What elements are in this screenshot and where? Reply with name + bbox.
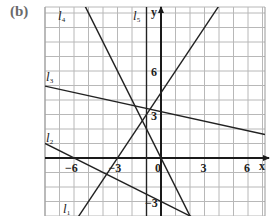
label-l1: l1: [63, 201, 71, 216]
line-l3: [45, 86, 265, 134]
x-tick-label: 0: [155, 161, 161, 175]
label-l2: l2: [46, 130, 54, 146]
y-axis-label: y: [151, 5, 157, 19]
coordinate-plane: xy−6−303663−3l1l2l3l4l5: [0, 0, 272, 216]
x-tick-label: 3: [201, 161, 207, 175]
x-tick-label: 6: [244, 161, 250, 175]
y-tick-label: 6: [151, 65, 157, 79]
x-tick-label: −6: [65, 161, 78, 175]
label-l5: l5: [133, 8, 141, 24]
label-l4: l4: [58, 8, 66, 24]
x-axis-label: x: [259, 159, 265, 173]
